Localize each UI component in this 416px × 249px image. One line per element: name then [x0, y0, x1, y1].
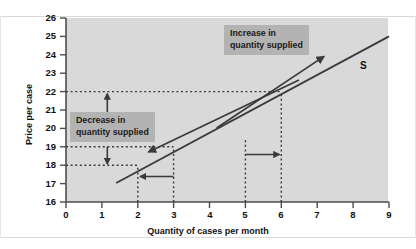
x-tick-label-1: 1: [92, 210, 112, 220]
x-tick-label-3: 3: [164, 210, 184, 220]
increase-callout-line1: Increase in: [230, 28, 303, 40]
supply-curve-label: S: [360, 60, 367, 71]
y-tick-label-22: 22: [34, 87, 56, 97]
decrease-callout: Decrease in quantity supplied: [70, 112, 155, 142]
x-tick-label-7: 7: [307, 210, 327, 220]
x-tick-label-4: 4: [200, 210, 220, 220]
decrease-callout-line1: Decrease in: [76, 115, 149, 127]
y-axis-ticks: [60, 18, 66, 202]
decrease-callout-line2: quantity supplied: [76, 127, 149, 139]
y-tick-label-25: 25: [34, 31, 56, 41]
y-tick-label-23: 23: [34, 68, 56, 78]
y-tick-label-17: 17: [34, 179, 56, 189]
x-axis-ticks: [66, 202, 389, 208]
y-tick-label-24: 24: [34, 50, 56, 60]
y-tick-label-26: 26: [34, 13, 56, 23]
x-tick-label-6: 6: [271, 210, 291, 220]
x-tick-label-5: 5: [235, 210, 255, 220]
increase-callout: Increase in quantity supplied: [224, 25, 309, 55]
y-tick-label-20: 20: [34, 123, 56, 133]
y-tick-label-18: 18: [34, 160, 56, 170]
x-tick-label-9: 9: [379, 210, 399, 220]
y-axis-title: Price per case: [24, 84, 34, 145]
x-tick-label-8: 8: [343, 210, 363, 220]
x-tick-label-2: 2: [128, 210, 148, 220]
figure-container: 26 25 24 23 22 21 20 19 18 17 16 0 1 2 3…: [0, 0, 416, 249]
y-tick-label-16: 16: [34, 197, 56, 207]
x-tick-label-0: 0: [56, 210, 76, 220]
y-tick-label-21: 21: [34, 105, 56, 115]
y-tick-label-19: 19: [34, 142, 56, 152]
increase-callout-line2: quantity supplied: [230, 40, 303, 52]
x-axis-title: Quantity of cases per month: [0, 226, 416, 236]
